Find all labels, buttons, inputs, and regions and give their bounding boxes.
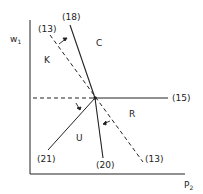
intersection-point — [93, 96, 97, 100]
label-line-15: (15) — [172, 93, 190, 103]
label-line-13-top: (13) — [38, 24, 56, 34]
region-r: R — [129, 109, 135, 119]
line-18 — [70, 25, 95, 98]
y-axis-label: w1 — [10, 34, 21, 45]
label-line-20: (20) — [96, 160, 114, 170]
region-c: C — [96, 38, 102, 48]
label-line-18: (18) — [62, 12, 80, 22]
phase-diagram: w1 P2 (18) (13) (15) (21) (20) (13) C K … — [0, 0, 203, 194]
region-k: K — [44, 55, 51, 65]
arrow-icon — [103, 121, 110, 125]
x-axis-label: P2 — [184, 180, 193, 191]
line-20 — [95, 98, 103, 158]
line-21 — [48, 98, 95, 150]
arrow-icon — [76, 103, 81, 110]
arrow-icon — [59, 38, 67, 44]
label-line-21: (21) — [37, 154, 55, 164]
label-line-13-bottom: (13) — [145, 154, 163, 164]
region-u: U — [76, 133, 83, 143]
